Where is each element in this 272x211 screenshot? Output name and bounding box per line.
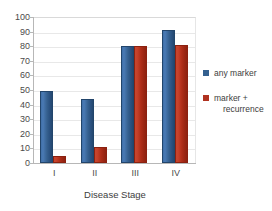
y-tick-label-40: 40 xyxy=(2,101,30,110)
legend-swatch-red-icon xyxy=(203,95,209,101)
y-tick-label-0: 0 xyxy=(2,159,30,168)
bar-stage-I-any-marker[interactable] xyxy=(40,91,53,163)
bar-stage-III-marker-recurrence[interactable] xyxy=(134,46,147,163)
x-axis-line xyxy=(33,163,196,164)
y-tick-label-10: 10 xyxy=(2,144,30,153)
x-tick-label-I: I xyxy=(34,168,74,179)
x-axis-tick-labels: I II III IV xyxy=(34,168,196,182)
x-tick-label-IV: IV xyxy=(156,168,196,179)
y-tick-label-90: 90 xyxy=(2,28,30,37)
bar-stage-IV-marker-recurrence[interactable] xyxy=(175,45,188,163)
bar-stage-I-marker-recurrence[interactable] xyxy=(53,156,66,163)
y-tick-label-70: 70 xyxy=(2,57,30,66)
bar-group-stage-III xyxy=(115,18,156,163)
bar-group-stage-IV xyxy=(156,18,197,163)
bar-group-stage-I xyxy=(34,18,75,163)
legend-label-marker-recurrence-line2: recurrence xyxy=(214,104,272,115)
legend-swatch-blue-icon xyxy=(203,70,209,76)
legend-item-any-marker[interactable]: any marker xyxy=(203,68,272,79)
y-tick-label-30: 30 xyxy=(2,115,30,124)
bar-stage-II-marker-recurrence[interactable] xyxy=(94,147,107,163)
legend-label-any-marker: any marker xyxy=(214,68,257,78)
x-tick-label-II: II xyxy=(75,168,115,179)
plot-area xyxy=(34,17,196,163)
chart-legend: any marker marker + recurrence xyxy=(203,68,272,129)
legend-item-marker-recurrence[interactable]: marker + recurrence xyxy=(203,93,272,115)
y-axis-tick-labels: 100 90 80 70 60 50 40 30 20 10 0 xyxy=(0,17,30,163)
y-tick-label-20: 20 xyxy=(2,130,30,139)
y-tick-label-100: 100 xyxy=(2,13,30,22)
y-tick-label-60: 60 xyxy=(2,71,30,80)
bar-chart: 100 90 80 70 60 50 40 30 20 10 0 xyxy=(0,0,272,211)
bar-stage-II-any-marker[interactable] xyxy=(81,99,94,163)
y-tick-label-50: 50 xyxy=(2,86,30,95)
x-tick-label-III: III xyxy=(115,168,155,179)
x-axis-title: Disease Stage xyxy=(34,189,196,200)
legend-label-marker-recurrence-line1: marker + xyxy=(214,93,248,103)
bar-group-stage-II xyxy=(75,18,116,163)
bar-stage-III-any-marker[interactable] xyxy=(121,46,134,163)
y-tick-label-80: 80 xyxy=(2,42,30,51)
bar-stage-IV-any-marker[interactable] xyxy=(162,30,175,163)
